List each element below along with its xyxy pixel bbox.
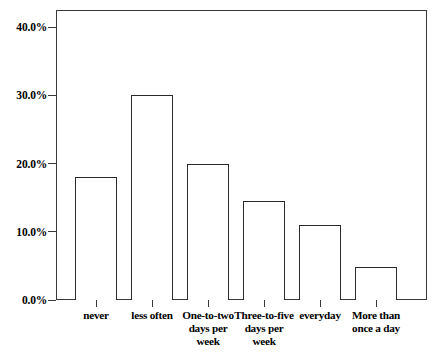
y-axis-tick-mark bbox=[48, 163, 56, 164]
x-axis-tick-mark bbox=[376, 300, 377, 307]
x-axis-tick-mark bbox=[152, 300, 153, 307]
x-axis-tick-label: Three-to-five days per week bbox=[234, 309, 294, 348]
x-axis-tick-mark bbox=[208, 300, 209, 307]
y-axis: 40.0%30.0%20.0%10.0%0.0% bbox=[0, 0, 56, 359]
y-axis-tick-mark bbox=[48, 231, 56, 232]
x-axis-tick-label: More than once a day bbox=[346, 309, 406, 335]
y-axis-tick-label: 30.0% bbox=[16, 88, 47, 102]
bar[interactable] bbox=[355, 267, 397, 300]
bar[interactable] bbox=[299, 225, 341, 300]
x-axis-tick-mark bbox=[96, 300, 97, 307]
y-axis-tick-mark bbox=[48, 95, 56, 96]
x-axis-tick-mark bbox=[320, 300, 321, 307]
y-axis-tick-mark bbox=[48, 300, 56, 301]
x-axis: neverless oftenOne-to-two days per weekT… bbox=[56, 300, 427, 359]
x-axis-tick-label: everyday bbox=[290, 309, 350, 322]
bar[interactable] bbox=[75, 177, 117, 300]
y-axis-tick-label: 20.0% bbox=[16, 157, 47, 171]
x-axis-tick-label: never bbox=[66, 309, 126, 322]
y-axis-tick-label: 10.0% bbox=[16, 225, 47, 239]
x-axis-tick-mark bbox=[264, 300, 265, 307]
y-axis-tick-label: 0.0% bbox=[22, 293, 47, 307]
bar[interactable] bbox=[187, 164, 229, 300]
y-axis-tick-label: 40.0% bbox=[16, 20, 47, 34]
x-axis-tick-label: less often bbox=[122, 309, 182, 322]
y-axis-tick-mark bbox=[48, 27, 56, 28]
bar[interactable] bbox=[131, 95, 173, 300]
x-axis-tick-label: One-to-two days per week bbox=[178, 309, 238, 348]
bars-container bbox=[56, 10, 427, 300]
bar-chart: 40.0%30.0%20.0%10.0%0.0% neverless often… bbox=[0, 0, 441, 359]
bar[interactable] bbox=[243, 201, 285, 300]
